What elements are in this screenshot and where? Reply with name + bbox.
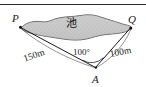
pond-region-label: 池 [66, 18, 77, 29]
point-label-q: Q [128, 14, 136, 25]
point-label-p: P [12, 13, 19, 24]
pond-geometry-figure: P Q A 池 150m 100m 100° [0, 0, 146, 87]
vertex-dot-A [95, 66, 97, 68]
point-label-a: A [92, 74, 99, 85]
vertex-dot-P [19, 26, 22, 29]
vertex-dot-Q [129, 27, 132, 30]
figure-canvas [0, 0, 146, 87]
angle-label-a: 100° [73, 48, 90, 57]
